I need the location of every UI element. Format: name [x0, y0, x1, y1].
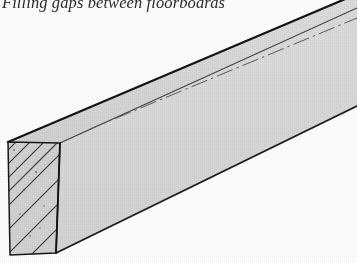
figure-container: Filling gaps between floorboards — [0, 0, 357, 263]
board-front-face — [56, 8, 357, 253]
floorboard-illustration — [0, 0, 357, 263]
